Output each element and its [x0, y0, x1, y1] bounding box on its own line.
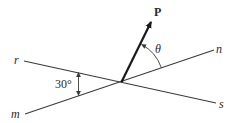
intersection-point: [121, 80, 124, 83]
label-n: n: [216, 43, 222, 55]
label-s: s: [219, 98, 224, 110]
label-r: r: [14, 54, 19, 66]
line-m-n: [25, 50, 214, 114]
label-m: m: [11, 108, 20, 120]
label-angle-30: 30°: [55, 78, 72, 90]
force-diagram: r m n s P θ 30°: [0, 0, 236, 123]
label-theta: θ: [155, 43, 161, 55]
label-vector-p: P: [154, 6, 161, 18]
vector-p-arrow: [122, 22, 151, 81]
diagram-canvas: [0, 0, 236, 123]
